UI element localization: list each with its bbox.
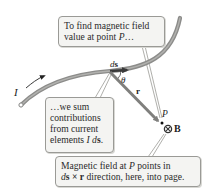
callout-left-var-i: I: [87, 134, 90, 145]
ds-label-s: s: [115, 59, 119, 69]
r-label: r: [136, 86, 140, 96]
callout-find-field: To find magnetic field value at point P…: [58, 16, 165, 47]
callout-pointer-left: [95, 74, 111, 98]
diagram-canvas: I ds θ r P B To find magnetic field valu…: [0, 0, 215, 196]
callout-left-line2: contributions: [50, 112, 109, 123]
point-p-label: P: [162, 109, 168, 119]
point-p-dot: [161, 122, 164, 125]
r-vector-arrow: [110, 72, 158, 121]
callout-bottom-line2: ds × r direction, here, into page.: [61, 171, 195, 182]
callout-sum-contributions: …we sum contributions from current eleme…: [45, 97, 114, 153]
callout-bottom-line1-prefix: Magnetic field at: [61, 160, 129, 171]
current-label: I: [14, 86, 18, 98]
callout-field-direction: Magnetic field at P points in ds × r dir…: [55, 156, 201, 187]
callout-bottom-line1-suffix: points in: [135, 160, 171, 171]
b-field-into-page-icon: [164, 125, 171, 132]
callout-top-line2-prefix: value at point: [64, 31, 119, 42]
current-direction-arrow: [26, 76, 44, 88]
callout-left-line4-prefix: elements: [50, 134, 87, 145]
ds-vector-arrow: [110, 70, 127, 71]
callout-top-line2-suffix: …: [125, 31, 135, 42]
callout-bottom-cross: ×: [70, 171, 80, 182]
callout-left-line3: from current: [50, 123, 109, 134]
callout-bottom-line2-suffix: direction, here, into page.: [84, 171, 184, 182]
callout-left-line4-suffix: .: [101, 134, 103, 145]
callout-left-line1: …we sum: [50, 101, 109, 112]
callout-top-line2: value at point P…: [64, 31, 159, 42]
theta-label: θ: [121, 75, 125, 85]
callout-top-line1: To find magnetic field: [64, 20, 159, 31]
callout-bottom-line1: Magnetic field at P points in: [61, 160, 195, 171]
callout-left-line4: elements I ds.: [50, 134, 109, 145]
b-field-label: B: [174, 123, 181, 134]
callout-pointer-bottom: [148, 134, 166, 157]
wire-end-left: [19, 103, 23, 107]
ds-label: ds: [110, 59, 118, 69]
